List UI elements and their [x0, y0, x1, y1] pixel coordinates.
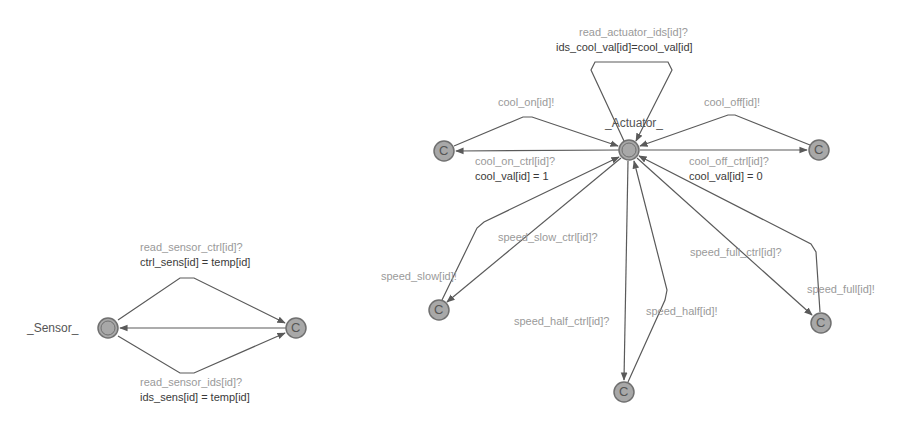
- committed-marker: C: [816, 316, 825, 329]
- sync-label: cool_off_ctrl[id]?: [689, 155, 769, 168]
- edge-cool-off[interactable]: [640, 115, 810, 146]
- sensor-template-name: _Sensor_: [27, 322, 78, 335]
- sync-label: read_actuator_ids[id]?: [579, 26, 688, 39]
- edge-read-sensor-ids[interactable]: [118, 333, 285, 373]
- sync-label: read_sensor_ids[id]?: [140, 376, 242, 389]
- sync-label: cool_on[id]!: [498, 96, 554, 109]
- committed-marker: C: [434, 303, 443, 316]
- committed-marker: C: [619, 385, 628, 398]
- edge-read-sensor-ctrl[interactable]: [118, 278, 285, 323]
- actuator-initial-location[interactable]: [619, 140, 639, 160]
- edge-cool-on[interactable]: [454, 117, 618, 146]
- committed-marker: C: [291, 321, 300, 334]
- sync-label: speed_half_ctrl[id]?: [514, 315, 609, 328]
- sync-label: speed_slow[id]!: [381, 270, 457, 283]
- edge-cool-on-ctrl[interactable]: [456, 150, 619, 151]
- sensor-initial-location[interactable]: [98, 318, 118, 338]
- update-label: ids_cool_val[id]=cool_val[id]: [556, 41, 693, 54]
- update-label: cool_val[id] = 1: [475, 170, 549, 183]
- sync-label: cool_on_ctrl[id]?: [475, 155, 555, 168]
- sync-label: speed_full_ctrl[id]?: [690, 246, 782, 259]
- sync-label: cool_off[id]!: [704, 96, 760, 109]
- actuator-template-name: _Actuator_: [605, 117, 663, 130]
- sync-label: read_sensor_ctrl[id]?: [140, 241, 243, 254]
- sync-label: speed_full[id]!: [807, 283, 875, 296]
- edge-speed-half-ctrl[interactable]: [624, 161, 628, 380]
- committed-marker: C: [439, 144, 448, 157]
- sync-label: speed_half[id]!: [646, 305, 718, 318]
- update-label: ctrl_sens[id] = temp[id]: [140, 256, 250, 269]
- sync-label: speed_slow_ctrl[id]?: [498, 231, 598, 244]
- update-label: cool_val[id] = 0: [689, 170, 763, 183]
- automata-canvas: [0, 0, 911, 438]
- update-label: ids_sens[id] = temp[id]: [140, 391, 250, 404]
- committed-marker: C: [814, 143, 823, 156]
- edge-speed-half[interactable]: [628, 161, 667, 382]
